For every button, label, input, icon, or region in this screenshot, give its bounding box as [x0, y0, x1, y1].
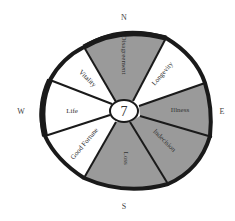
label-loss: Loss	[122, 151, 130, 165]
center-number: 7	[121, 104, 128, 119]
compass-east: E	[220, 107, 225, 116]
label-disagreement: Disagreement	[120, 36, 128, 75]
compass-north: N	[121, 13, 127, 22]
label-life: Life	[66, 107, 78, 115]
compass-west: W	[17, 107, 25, 116]
label-illness: Illness	[171, 106, 190, 114]
compass-south: S	[122, 202, 126, 211]
wheel-diagram: 7 Disagreement Longevity Illness Indecis…	[0, 0, 235, 221]
